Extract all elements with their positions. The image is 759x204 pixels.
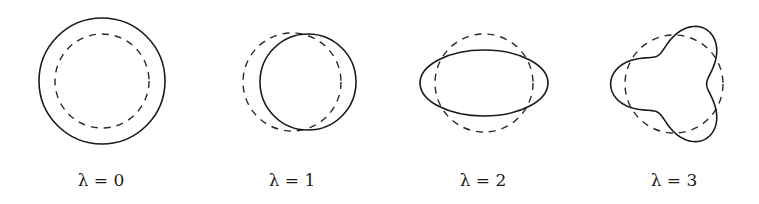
- panel-mode-1: [243, 33, 356, 131]
- label-mode-2: λ = 2: [460, 170, 507, 190]
- deformed-shape: [39, 18, 165, 144]
- deformed-shape: [420, 50, 548, 116]
- reference-circle: [625, 35, 723, 133]
- label-mode-1: λ = 1: [269, 170, 316, 190]
- deformed-shape: [611, 26, 717, 141]
- reference-circle: [243, 33, 341, 131]
- panel-mode-2: [420, 34, 548, 132]
- panel-mode-0: [39, 18, 165, 144]
- label-mode-0: λ = 0: [78, 170, 125, 190]
- reference-circle: [55, 34, 149, 128]
- label-mode-3: λ = 3: [651, 170, 698, 190]
- panel-mode-3: [611, 26, 723, 141]
- reference-circle: [435, 34, 533, 132]
